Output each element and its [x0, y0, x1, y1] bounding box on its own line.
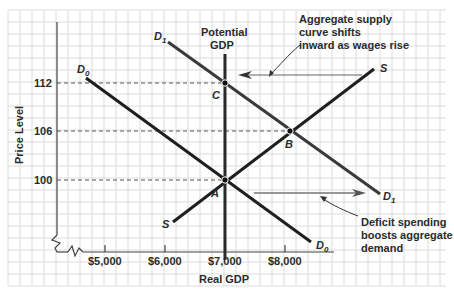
x-axis-label: Real GDP: [199, 273, 249, 285]
x-tick-7000: $7,000: [208, 255, 242, 267]
x-tick-8000: $8,000: [268, 255, 302, 267]
point-label-a: A: [210, 187, 219, 199]
label-d1-top: D1: [154, 30, 167, 45]
ad-as-diagram: 112 106 100 $5,000 $6,000 $7,000 $8,000 …: [0, 0, 454, 295]
y-axis-label: Price Level: [13, 106, 25, 164]
x-tick-6000: $6,000: [148, 255, 182, 267]
demand-annotation-3: demand: [361, 242, 403, 254]
demand-annotation-2: boosts aggregate: [361, 229, 453, 241]
curve-d0: [86, 78, 311, 242]
supply-annotation-1: Aggregate supply: [299, 13, 393, 25]
y-tick-100: 100: [34, 174, 52, 186]
y-tick-112: 112: [34, 77, 52, 89]
potential-gdp-label-1: Potential: [201, 26, 247, 38]
supply-annotation-3: inward as wages rise: [299, 39, 409, 51]
label-d0-top: D0: [77, 63, 90, 78]
label-s-top: S: [380, 62, 388, 74]
x-tick-5000: $5,000: [88, 255, 122, 267]
label-s-bottom: S: [162, 218, 170, 230]
point-label-c: C: [212, 89, 221, 101]
potential-gdp-label-2: GDP: [210, 39, 234, 51]
point-label-b: B: [285, 138, 293, 150]
label-d1-bottom: D1: [383, 190, 396, 205]
supply-annotation-2: curve shifts: [299, 26, 361, 38]
y-tick-106: 106: [34, 125, 52, 137]
demand-annotation-1: Deficit spending: [361, 216, 447, 228]
